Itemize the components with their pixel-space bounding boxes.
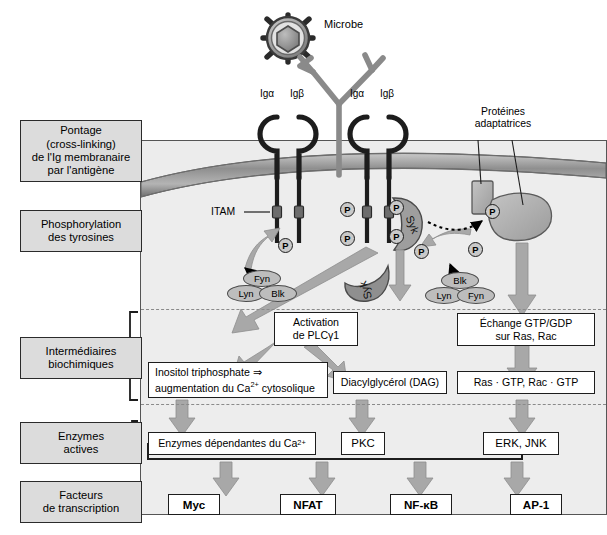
stage-enzymes-line1: Enzymes	[58, 430, 104, 443]
stage-facteurs-line1: Facteurs	[43, 489, 120, 502]
stage-pontage-line2: (cross-linking)	[32, 138, 131, 151]
kinase-fyn-right: Fyn	[457, 287, 495, 304]
box-tf-ap1: AP-1	[510, 494, 562, 515]
stage-interm-line1: Intermédiaires	[46, 345, 117, 358]
box-gtp-exchange: Échange GTP/GDP sur Ras, Rac	[457, 313, 595, 346]
bcr-signaling-diagram: Syk Syk	[0, 0, 607, 535]
box-tf-myc: Myc	[168, 494, 220, 515]
phosphate-icon-6: P	[278, 238, 293, 253]
stage-pontage-line1: Pontage	[32, 124, 131, 137]
adaptor-label-line2: adaptatrices	[455, 118, 551, 130]
phosphate-icon-4: P	[389, 229, 404, 244]
stage-label-intermediaires: Intermédiaires biochimiques	[20, 337, 142, 379]
box-ras-gtp-rac-gtp: Ras · GTP, Rac · GTP	[457, 371, 595, 394]
box-erk-jnk: ERK, JNK	[483, 432, 559, 455]
ip3-line2-text-b: cytosolique	[259, 381, 315, 393]
box-ca-dependent-enzymes: Enzymes dépendantes du Ca2+	[148, 432, 316, 455]
ca-enzymes-text: Enzymes dépendantes du Ca	[158, 437, 297, 450]
box-diacylglycerol: Diacylglycérol (DAG)	[333, 371, 447, 394]
phosphate-icon-2: P	[340, 231, 355, 246]
ca-enzymes-superscript: 2+	[297, 437, 305, 450]
kinase-blk-left: Blk	[259, 285, 297, 302]
stage-phospho-line2: des tyrosines	[41, 231, 121, 244]
stage-pontage-line3: de l'Ig membranaire	[32, 151, 131, 164]
box-inositol-triphosphate: Inositol triphosphate ⇒ augmentation du …	[148, 362, 328, 398]
box-plc-activation: Activation de PLCγ1	[274, 312, 358, 346]
adaptor-label-line1: Protéines	[455, 106, 551, 118]
receptor-label-igbeta-left: Igβ	[290, 88, 304, 99]
receptor-label-igalpha-right: Igα	[350, 88, 364, 99]
stage-label-enzymes: Enzymes actives	[20, 422, 142, 464]
plc-line1: Activation	[293, 316, 340, 329]
phosphate-icon-7: P	[468, 242, 483, 257]
stage-phospho-line1: Phosphorylation	[41, 218, 121, 231]
receptor-label-igbeta-right: Igβ	[380, 88, 394, 99]
stage-label-pontage: Pontage (cross-linking) de l'Ig membrana…	[20, 120, 142, 182]
tier-divider-enzymes	[141, 404, 606, 405]
box-pkc: PKC	[341, 432, 385, 455]
ip3-ca-superscript: 2+	[250, 380, 258, 389]
gtp-exchange-line1: Échange GTP/GDP	[480, 317, 572, 330]
ip3-line2: augmentation du Ca2+ cytosolique	[155, 379, 315, 394]
adaptor-proteins-label: Protéines adaptatrices	[455, 106, 551, 131]
gtp-exchange-line2: sur Ras, Rac	[480, 330, 572, 343]
phosphate-icon-5: P	[414, 244, 429, 259]
stage-facteurs-line2: de transcription	[43, 502, 120, 515]
phosphate-icon-1: P	[340, 202, 355, 217]
box-tf-nfat: NFAT	[280, 494, 336, 515]
microbe-icon	[263, 15, 313, 62]
phosphate-icon-8: P	[485, 204, 500, 219]
microbe-label: Microbe	[324, 18, 363, 30]
plc-line2: de PLCγ1	[293, 329, 340, 342]
stage-label-phosphorylation: Phosphorylation des tyrosines	[20, 210, 142, 252]
box-tf-nfkb: NF-κB	[390, 494, 452, 515]
stage-enzymes-line2: actives	[58, 443, 104, 456]
receptor-label-igalpha-left: Igα	[260, 88, 274, 99]
stage-interm-line2: biochimiques	[46, 358, 117, 371]
itam-label: ITAM	[211, 206, 235, 217]
phosphate-icon-3: P	[389, 200, 404, 215]
caption-remnant	[8, 521, 308, 532]
ip3-line1: Inositol triphosphate ⇒	[155, 366, 315, 379]
ip3-line2-text-a: augmentation du Ca	[155, 381, 250, 393]
stage-label-facteurs: Facteurs de transcription	[20, 481, 142, 523]
stage-pontage-line4: par l'antigène	[32, 164, 131, 177]
tier-divider-intermediates	[141, 309, 606, 310]
